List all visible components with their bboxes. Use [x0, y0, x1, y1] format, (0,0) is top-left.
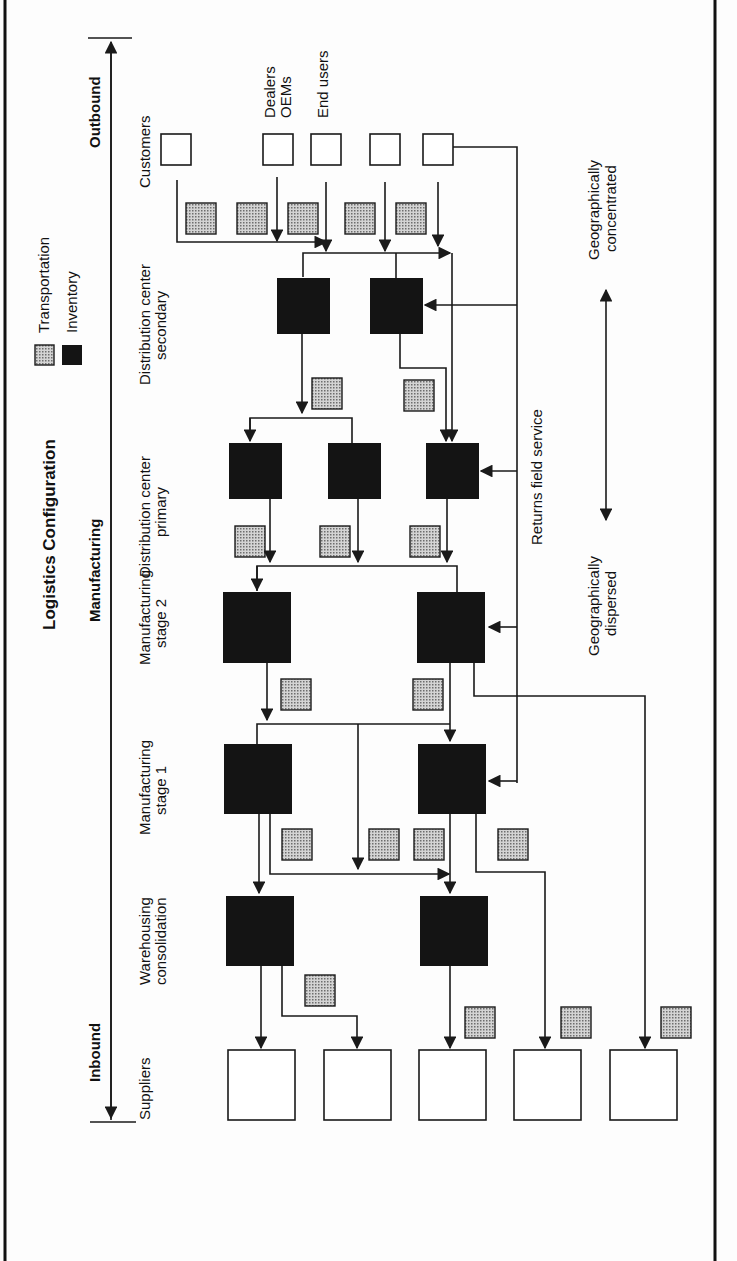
geo-axis: Geographically concentrated Geographical…	[585, 159, 619, 656]
stage-label-mfg2-2: stage 2	[152, 599, 169, 648]
manufacturing-label: Manufacturing	[86, 519, 103, 622]
legend: Transportation Inventory	[35, 237, 82, 365]
stage-label-suppliers: Suppliers	[136, 1057, 153, 1120]
inventory-mfg-stage1-2	[418, 744, 486, 814]
transport-box	[305, 975, 335, 1006]
stage-label-dc-secondary-2: secondary	[152, 290, 169, 360]
stage-label-dc-primary-1: Distribution center	[136, 456, 153, 577]
geo-concentrated-1: Geographically	[585, 159, 602, 260]
geo-concentrated-2: concentrated	[602, 165, 619, 252]
supplier-box	[514, 1050, 581, 1120]
stage-label-customers: Customers	[136, 115, 153, 188]
stage-label-mfg1-2: stage 1	[152, 766, 169, 815]
supplier-box	[610, 1050, 677, 1120]
transport-box	[561, 1007, 591, 1038]
transport-box	[413, 679, 443, 710]
flow-axis: Outbound Manufacturing Inbound	[86, 38, 136, 1122]
stage-label-dc-secondary-1: Distribution center	[136, 264, 153, 385]
customer-box	[370, 134, 400, 165]
inventory-warehousing-1	[226, 896, 294, 966]
legend-inventory-swatch	[62, 345, 82, 365]
transport-box	[498, 829, 528, 860]
diagram-title: Logistics Configuration	[40, 439, 59, 630]
customer-box-dealers-oems	[263, 134, 293, 165]
geo-dispersed-1: Geographically	[585, 555, 602, 656]
legend-transportation-label: Transportation	[35, 237, 52, 333]
suppliers	[228, 1050, 677, 1120]
inventory-dc-primary-3	[426, 443, 479, 499]
inventory-dc-secondary-2	[370, 278, 423, 334]
transport-box	[282, 829, 312, 860]
inventory-warehousing-2	[420, 896, 488, 966]
stage-label-warehousing-2: consolidation	[152, 897, 169, 985]
customer-box	[161, 134, 191, 165]
transport-box	[414, 829, 444, 860]
legend-inventory-label: Inventory	[63, 271, 80, 333]
inventory-mfg-stage2-2	[417, 592, 485, 663]
stage-label-dc-primary-2: primary	[152, 486, 169, 537]
transport-box	[410, 526, 440, 557]
inventory-mfg-stage1-1	[224, 744, 292, 814]
returns-label: Returns field service	[528, 409, 545, 545]
outbound-label: Outbound	[86, 76, 103, 148]
stage-label-mfg2-1: Manufacturing	[136, 570, 153, 665]
transport-box	[465, 1007, 495, 1038]
customer-box-end-users	[311, 134, 341, 165]
legend-transportation-swatch	[35, 345, 54, 365]
transport-customers	[186, 203, 426, 234]
stage-labels: Customers Distribution center secondary …	[136, 115, 169, 1120]
transport-box	[369, 829, 399, 860]
customer-box	[423, 134, 453, 165]
transport-box	[661, 1007, 691, 1038]
transport-box	[281, 679, 311, 710]
logistics-diagram: Transportation Inventory Logistics Confi…	[0, 0, 737, 1261]
inventory-mfg-stage2-1	[223, 592, 291, 663]
customers	[161, 134, 453, 165]
warehousing-flows	[261, 966, 450, 1048]
supplier-box	[419, 1050, 486, 1120]
inventory-dc-primary-1	[229, 443, 282, 499]
transport-box	[404, 380, 434, 411]
transport-box	[235, 526, 265, 557]
supplier-box	[228, 1050, 295, 1120]
inbound-label: Inbound	[86, 1023, 103, 1082]
stage-label-mfg1-1: Manufacturing	[136, 740, 153, 835]
stage-label-warehousing-1: Warehousing	[136, 897, 153, 985]
oems-label: OEMs	[277, 76, 294, 118]
dealers-label: Dealers	[261, 66, 278, 118]
supplier-box	[324, 1050, 391, 1120]
inventory-dc-secondary-1	[277, 278, 330, 334]
transport-box	[320, 526, 350, 557]
inventory-dc-primary-2	[328, 443, 381, 499]
end-users-label: End users	[314, 50, 331, 118]
transport-box	[312, 378, 342, 409]
geo-dispersed-2: dispersed	[602, 571, 619, 636]
